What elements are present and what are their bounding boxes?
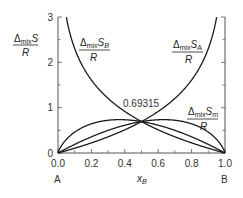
y-tick-label: 1 [47,102,53,113]
entropy-of-mixing-chart: 0.00.20.40.60.81.00123 ΔmixS R ΔmixSB R … [0,0,243,198]
y-label-s: S [32,33,39,44]
y-tick-label: 3 [47,12,53,23]
x-tick-label: 0.2 [84,158,98,169]
svg-text:R: R [185,54,192,65]
label-smix-b: ΔmixSB R [79,37,110,63]
curve-smix-b [66,17,225,153]
y-tick-label: 0 [47,148,53,159]
x-end-label-a: A [54,174,61,185]
y-label-mix: mix [21,38,32,45]
axes: 0.00.20.40.60.81.00123 [47,12,232,170]
label-smix-m: ΔmixSm R [187,106,218,132]
y-label-r: R [22,47,29,58]
svg-text:ΔmixSA: ΔmixSA [173,39,202,51]
y-axis-label: ΔmixS R [13,33,39,58]
svg-text:R: R [90,52,97,63]
x-tick-label: 0.4 [118,158,132,169]
x-tick-label: 1.0 [218,158,232,169]
svg-text:R: R [200,121,207,132]
svg-text:ΔmixSm: ΔmixSm [188,106,218,118]
annotation-0-69315: 0.69315 [123,98,160,109]
x-tick-label: 0.0 [51,158,65,169]
x-tick-label: 0.6 [151,158,165,169]
x-end-label-b: B [221,174,228,185]
x-tick-label: 0.8 [185,158,199,169]
x-axis-label: xB [136,173,147,185]
label-smix-a: ΔmixSA R [172,39,203,65]
svg-text:ΔmixSB: ΔmixSB [80,37,109,49]
y-tick-label: 2 [47,57,53,68]
svg-text:ΔmixS: ΔmixS [14,33,39,45]
